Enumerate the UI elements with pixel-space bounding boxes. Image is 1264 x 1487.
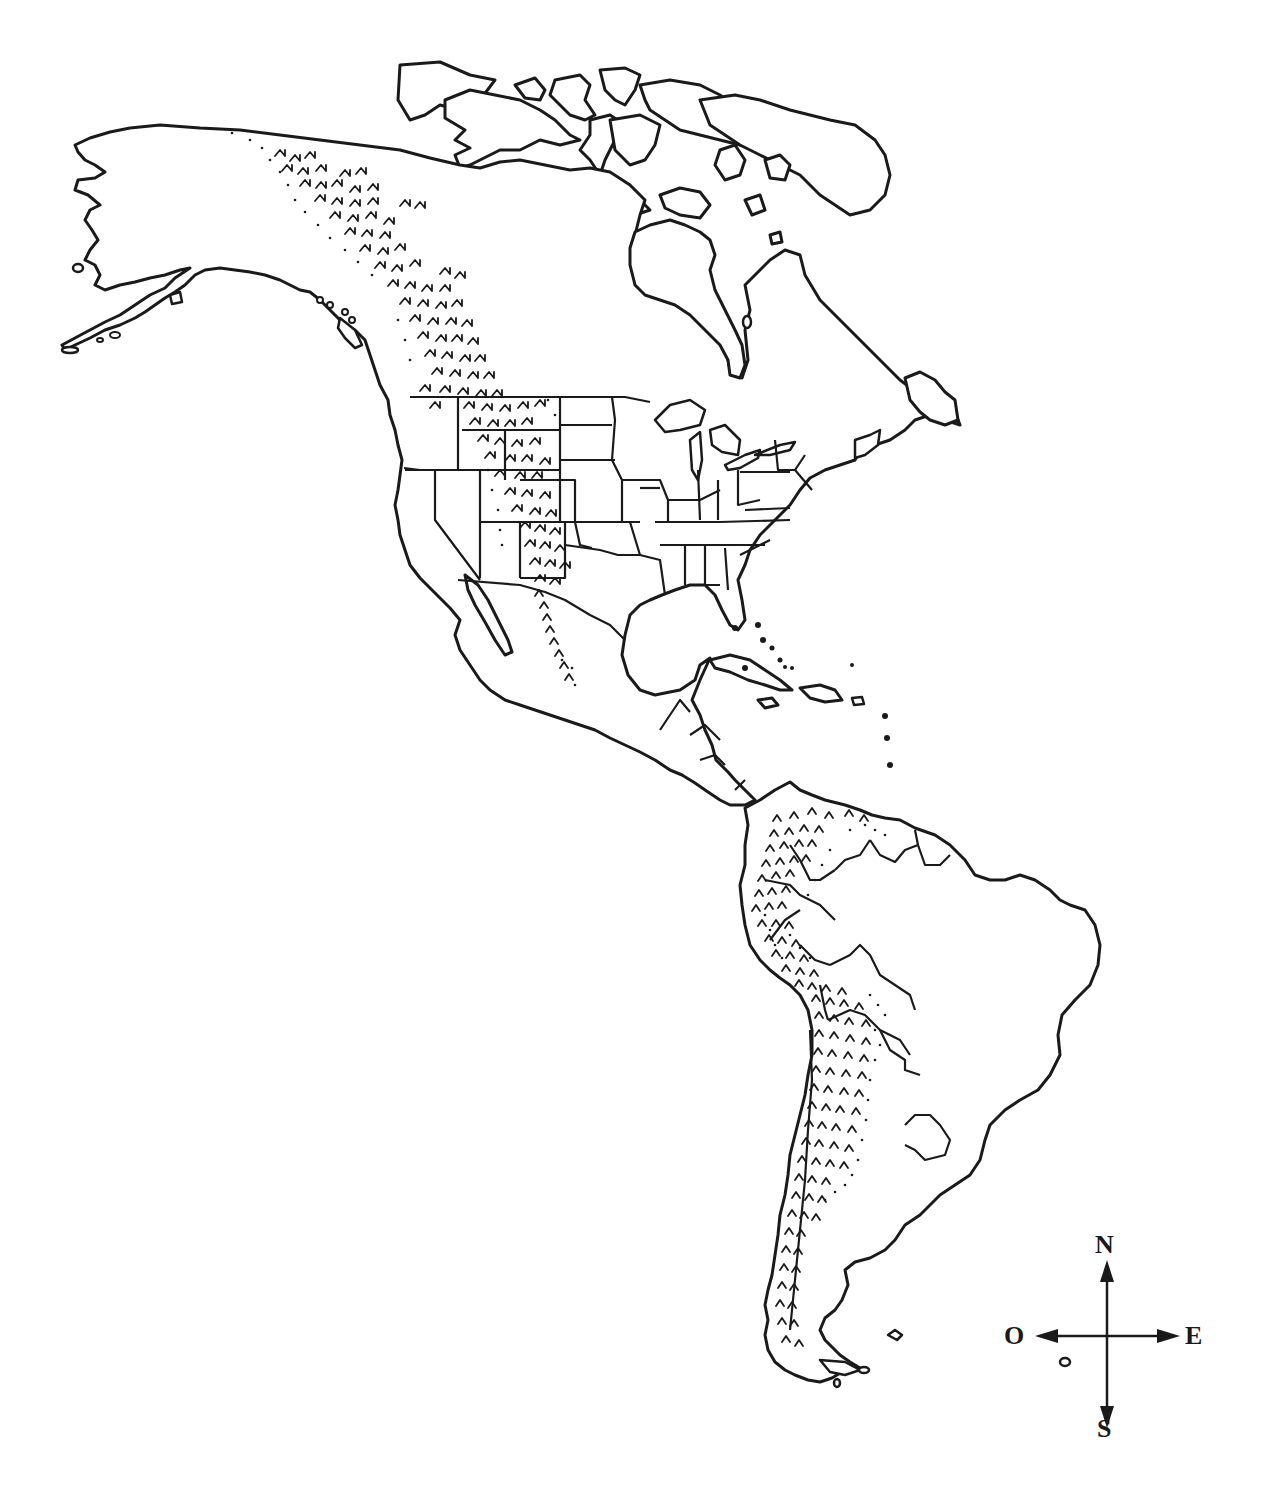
compass-east-label: E [1185,1323,1202,1349]
caribbean-islands [710,622,893,768]
jamaica [758,698,778,708]
hispaniola [800,685,842,702]
compass-north-label: N [1095,1232,1114,1258]
arrow-north-icon [1100,1260,1114,1282]
arrow-east-icon [1157,1329,1180,1343]
compass-west-label: O [1004,1323,1024,1349]
compass-rose: N O E S [1000,1230,1220,1445]
arrow-west-icon [1035,1329,1058,1343]
compass-south-label: S [1097,1416,1111,1442]
